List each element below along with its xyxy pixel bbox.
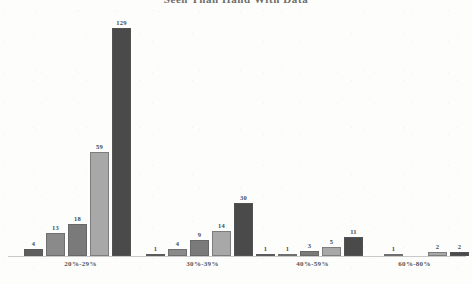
bar-slot: 1 xyxy=(256,8,275,256)
bar-slot xyxy=(362,8,381,256)
bar-value-label: 1 xyxy=(286,246,289,253)
bar-slot: 4 xyxy=(24,8,43,256)
bar-slot: 14 xyxy=(212,8,231,256)
bar-slot: 4 xyxy=(168,8,187,256)
bar-value-label: 1 xyxy=(264,246,267,253)
bar-group-bars: 113511 xyxy=(256,8,363,256)
bar[interactable] xyxy=(168,249,187,256)
bar-value-label: 9 xyxy=(198,232,201,239)
bar[interactable] xyxy=(46,233,65,256)
bar-group-bars: 4131859129 xyxy=(24,8,131,256)
chart-title: Seen Than Hand With Data xyxy=(0,0,472,5)
bar-slot: 1 xyxy=(146,8,165,256)
bar-slot: 1 xyxy=(278,8,297,256)
bar-slot: 13 xyxy=(46,8,65,256)
bar-value-label: 129 xyxy=(116,20,126,27)
bar-value-label: 1 xyxy=(154,246,157,253)
bar-value-label: 4 xyxy=(176,241,179,248)
bar-slot: 59 xyxy=(90,8,109,256)
bar-value-label: 1 xyxy=(392,246,395,253)
bar-slot xyxy=(406,8,425,256)
bar-slot: 3 xyxy=(300,8,319,256)
bar-value-label: 30 xyxy=(240,195,247,202)
bar-value-label: 59 xyxy=(96,144,103,151)
bar-value-label: 2 xyxy=(458,244,461,251)
bar-slot: 30 xyxy=(234,8,253,256)
bar[interactable] xyxy=(212,231,231,256)
bar-value-label: 18 xyxy=(74,216,81,223)
bar-value-label: 14 xyxy=(218,223,225,230)
bar-slot: 129 xyxy=(112,8,131,256)
bar-value-label: 11 xyxy=(350,229,357,236)
bar-value-label: 2 xyxy=(436,244,439,251)
bar-group: 12260%-80% xyxy=(362,8,467,256)
bar[interactable] xyxy=(190,240,209,256)
chart-page: Seen Than Hand With Data 413185912920%-2… xyxy=(0,0,472,284)
bar-slot: 9 xyxy=(190,8,209,256)
bar[interactable] xyxy=(322,247,341,256)
bar-group: 11351140%-59% xyxy=(256,8,369,256)
bar-slot: 1 xyxy=(384,8,403,256)
group-category-label: 60%-80% xyxy=(362,260,467,268)
bar-slot: 11 xyxy=(344,8,363,256)
bar-value-label: 13 xyxy=(52,225,59,232)
bar[interactable] xyxy=(344,237,363,256)
bar[interactable] xyxy=(68,224,87,256)
bar-slot: 2 xyxy=(450,8,469,256)
bar-value-label: 5 xyxy=(330,239,333,246)
bar-group-bars: 1491430 xyxy=(146,8,253,256)
group-category-label: 30%-39% xyxy=(146,260,259,268)
bar[interactable] xyxy=(24,249,43,256)
bar[interactable] xyxy=(234,203,253,256)
bar[interactable] xyxy=(90,152,109,256)
bar-slot: 2 xyxy=(428,8,447,256)
bar-slot: 5 xyxy=(322,8,341,256)
group-category-label: 20%-29% xyxy=(24,260,137,268)
bar-group-bars: 122 xyxy=(362,8,469,256)
plot-area: 413185912920%-29%149143030%-39%11351140%… xyxy=(0,8,472,256)
bar-slot: 18 xyxy=(68,8,87,256)
bar-value-label: 3 xyxy=(308,243,311,250)
group-category-label: 40%-59% xyxy=(256,260,369,268)
bar-value-label: 4 xyxy=(32,241,35,248)
bar-group: 413185912920%-29% xyxy=(24,8,137,256)
category-axis-line xyxy=(8,256,466,257)
chart-title-clip: Seen Than Hand With Data xyxy=(0,0,472,7)
bar-group: 149143030%-39% xyxy=(146,8,259,256)
bar[interactable] xyxy=(112,28,131,256)
